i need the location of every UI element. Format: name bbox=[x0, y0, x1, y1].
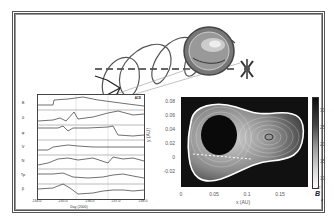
y-tick: 0.06 bbox=[153, 112, 175, 118]
colorbar-tick: 25 bbox=[320, 125, 325, 130]
x-tick: 236.0 bbox=[86, 199, 95, 203]
colorbar-tick: 20 bbox=[320, 142, 325, 147]
spacecraft-tag: ACE bbox=[135, 96, 141, 100]
y-axis-label: y (AU) bbox=[145, 128, 151, 142]
y-tick: 0.04 bbox=[153, 126, 175, 132]
colorbar-subscript: z bbox=[321, 197, 323, 202]
timeseries-axes bbox=[37, 94, 145, 200]
x-tick: 0 bbox=[180, 191, 183, 197]
panel-label-theta: θ bbox=[19, 115, 27, 120]
y-tick: -0.02 bbox=[153, 168, 175, 174]
contour-map bbox=[181, 97, 308, 187]
primary-core bbox=[201, 115, 237, 155]
y-tick: 0.08 bbox=[153, 98, 175, 104]
colorbar-tick: 30 bbox=[320, 108, 325, 113]
x-tick: 0.1 bbox=[244, 191, 251, 197]
contour-plot bbox=[181, 97, 308, 187]
x-tick: 0.05 bbox=[209, 191, 219, 197]
colorbar-tick: 15 bbox=[320, 159, 325, 164]
colorbar-label: B bbox=[315, 190, 320, 197]
x-tick: 0.15 bbox=[275, 191, 285, 197]
spacecraft-icon bbox=[241, 59, 253, 79]
panel-label-n: N bbox=[19, 158, 27, 163]
timeseries-panel: ACE B θ φ V N Tp β 234.0 235.0 236.0 237… bbox=[19, 92, 149, 212]
figure-frame: ACE B θ φ V N Tp β 234.0 235.0 236.0 237… bbox=[12, 11, 325, 213]
colorbar-tick: 10 bbox=[320, 176, 325, 181]
flux-rope-illustration bbox=[85, 18, 265, 103]
contour-panel: y (AU) 0.08 0.06 0.04 0.02 0 -0.02 bbox=[147, 94, 327, 214]
x-tick: 234.0 bbox=[33, 199, 42, 203]
x-axis-label: Day (2000) bbox=[70, 205, 87, 209]
panel-label-v: V bbox=[19, 144, 27, 149]
cross-section bbox=[184, 27, 234, 75]
x-axis-label: x (AU) bbox=[236, 199, 250, 205]
y-tick: 0.02 bbox=[153, 140, 175, 146]
panel-label-b: B bbox=[19, 100, 27, 105]
timeseries-traces bbox=[38, 95, 144, 199]
x-tick: 237.0 bbox=[112, 199, 121, 203]
panel-label-beta: β bbox=[19, 186, 27, 191]
y-tick: 0 bbox=[153, 154, 175, 160]
panel-label-phi: φ bbox=[19, 130, 27, 135]
panel-label-tp: Tp bbox=[19, 172, 27, 177]
colorbar bbox=[312, 97, 319, 189]
x-tick: 235.0 bbox=[59, 199, 68, 203]
